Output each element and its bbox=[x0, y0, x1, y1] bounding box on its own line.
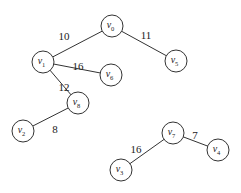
nodes-layer: v0v1v5v6v8v2v7v3v4 bbox=[12, 15, 229, 181]
node-v5: v5 bbox=[165, 50, 187, 72]
node-v6: v6 bbox=[100, 64, 122, 86]
edge-weight-v8-v2: 8 bbox=[52, 123, 58, 135]
node-v1: v1 bbox=[32, 51, 54, 73]
graph-diagram: 101116128167 v0v1v5v6v8v2v7v3v4 bbox=[0, 0, 241, 193]
edge-weight-v7-v4: 7 bbox=[192, 129, 198, 141]
node-v0: v0 bbox=[101, 15, 123, 37]
node-v3: v3 bbox=[110, 159, 132, 181]
node-v4: v4 bbox=[207, 139, 229, 161]
edge-weight-v0-v1: 10 bbox=[59, 30, 71, 42]
edge-weight-v1-v6: 16 bbox=[73, 60, 85, 72]
node-v2: v2 bbox=[12, 120, 34, 142]
edges-layer bbox=[23, 26, 218, 170]
edge-weight-v1-v8: 12 bbox=[59, 81, 70, 93]
edge-v0-v1 bbox=[43, 26, 112, 62]
node-v8: v8 bbox=[67, 92, 89, 114]
edge-weight-v0-v5: 11 bbox=[141, 29, 152, 41]
graph-svg: 101116128167 v0v1v5v6v8v2v7v3v4 bbox=[0, 0, 241, 193]
edge-weight-v7-v3: 16 bbox=[131, 143, 143, 155]
node-v7: v7 bbox=[162, 122, 184, 144]
